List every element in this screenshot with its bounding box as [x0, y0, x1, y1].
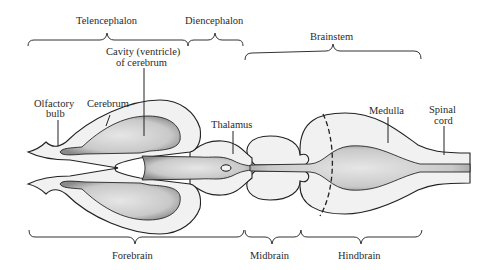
label-medulla: Medulla: [369, 105, 404, 116]
midbrain-lower-lobe: [247, 171, 309, 200]
midbrain-upper-lobe: [247, 136, 309, 165]
label-cavity-line2: of cerebrum: [116, 57, 167, 68]
label-spinal-line2: cord: [434, 115, 453, 126]
brain-drawing: [0, 0, 490, 270]
brace-midbrain: [245, 230, 301, 244]
brain-diagram: Telencephalon Diencephalon Brainstem Cav…: [0, 0, 490, 270]
label-thalamus: Thalamus: [211, 119, 252, 130]
brace-hindbrain: [301, 230, 422, 244]
label-forebrain: Forebrain: [112, 250, 153, 261]
brace-telencephalon: [28, 33, 188, 46]
label-diencephalon: Diencephalon: [185, 15, 243, 26]
brace-forebrain: [29, 230, 244, 244]
brace-brainstem: [245, 44, 421, 60]
brace-diencephalon: [188, 33, 243, 46]
label-midbrain: Midbrain: [250, 250, 289, 261]
label-hindbrain: Hindbrain: [338, 250, 381, 261]
label-spinal-line1: Spinal: [429, 104, 456, 115]
label-brainstem: Brainstem: [310, 31, 353, 42]
label-olfactory-line2: bulb: [46, 108, 65, 119]
label-cerebrum: Cerebrum: [87, 98, 129, 109]
label-telencephalon: Telencephalon: [76, 15, 137, 26]
thalamus-oval: [221, 165, 231, 171]
label-cavity-line1: Cavity (ventricle): [106, 46, 180, 57]
